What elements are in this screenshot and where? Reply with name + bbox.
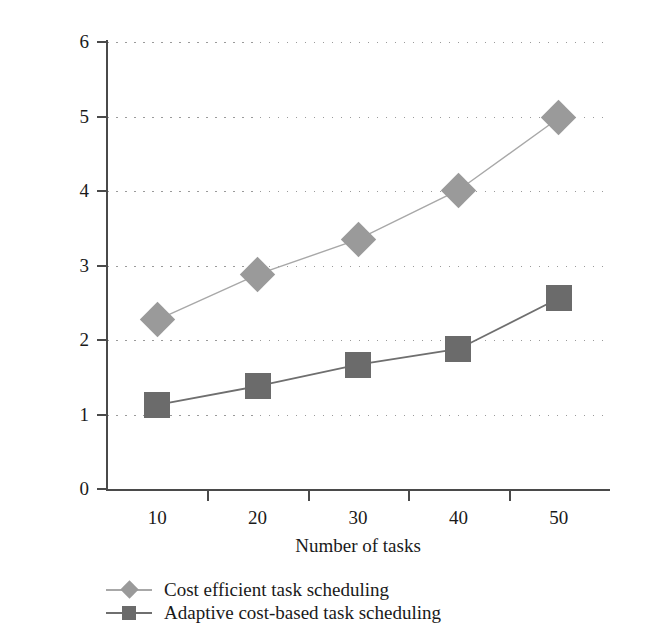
- legend-diamond-icon: [120, 580, 138, 598]
- legend-label: Cost efficient task scheduling: [152, 578, 389, 601]
- y-tick-label: 4: [55, 181, 89, 200]
- x-tick-label: 20: [228, 508, 288, 527]
- y-tick-mark: [97, 41, 106, 43]
- y-tick-mark: [97, 339, 106, 341]
- y-tick-label: 0: [55, 479, 89, 498]
- data-point-marker: [144, 392, 170, 418]
- data-point-marker: [546, 285, 572, 311]
- data-point-marker: [245, 373, 271, 399]
- data-point-marker: [345, 352, 371, 378]
- x-tick-mark: [308, 491, 310, 501]
- data-point-marker: [441, 173, 476, 208]
- x-axis-title-label: Number of tasks: [295, 535, 421, 556]
- data-point-marker: [340, 222, 375, 257]
- series-markers: [107, 42, 609, 489]
- y-tick-label: 3: [55, 256, 89, 275]
- y-tick-label: 2: [55, 330, 89, 349]
- x-tick-mark: [408, 491, 410, 501]
- legend-label: Adaptive cost-based task scheduling: [152, 601, 441, 624]
- chart-legend: Cost efficient task schedulingAdaptive c…: [106, 578, 566, 624]
- y-tick-mark: [97, 488, 106, 490]
- x-tick-label: 10: [127, 508, 187, 527]
- y-tick-label: 1: [55, 405, 89, 424]
- x-axis-title: Number of tasks: [107, 536, 609, 555]
- data-point-marker: [541, 100, 576, 135]
- y-tick-label: 6: [55, 32, 89, 51]
- x-tick-label: 40: [428, 508, 488, 527]
- legend-item[interactable]: Cost efficient task scheduling: [106, 578, 566, 601]
- x-tick-mark: [207, 491, 209, 501]
- y-tick-mark: [97, 414, 106, 416]
- y-tick-mark: [97, 116, 106, 118]
- x-tick-mark: [509, 491, 511, 501]
- legend-item[interactable]: Adaptive cost-based task scheduling: [106, 601, 566, 624]
- legend-key: [106, 578, 152, 601]
- y-tick-mark: [97, 265, 106, 267]
- x-tick-label: 30: [328, 508, 388, 527]
- legend-square-icon: [122, 606, 136, 620]
- data-point-marker: [445, 336, 471, 362]
- plot-area: [107, 42, 609, 489]
- y-tick-mark: [97, 190, 106, 192]
- chart-figure: 0123456 1020304050 Execution time (ms) N…: [0, 0, 661, 635]
- data-point-marker: [140, 302, 175, 337]
- legend-key: [106, 601, 152, 624]
- y-axis-line: [106, 40, 108, 491]
- x-tick-label: 50: [529, 508, 589, 527]
- x-axis-line: [106, 489, 610, 491]
- y-tick-label: 5: [55, 107, 89, 126]
- data-point-marker: [240, 257, 275, 292]
